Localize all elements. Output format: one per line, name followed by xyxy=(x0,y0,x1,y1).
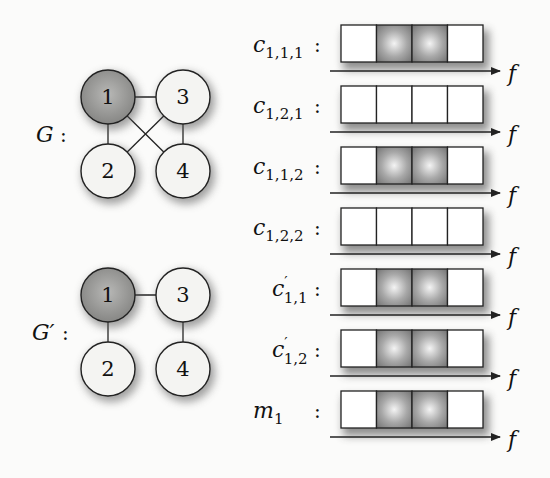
cell-empty xyxy=(448,86,484,123)
cell-empty xyxy=(412,86,448,123)
cell-empty xyxy=(341,391,377,428)
row-label: c′1,2 xyxy=(272,334,308,368)
graph-label-colon: : xyxy=(62,321,69,345)
row-label-colon: : xyxy=(314,277,321,301)
cell-empty xyxy=(448,208,484,245)
diagram-canvas: G:1234 G′:1234 c1,1,1:fc1,2,1:fc1,1,2:fc… xyxy=(0,0,550,478)
graph-g: G:1234 xyxy=(36,70,215,204)
row-label-colon: : xyxy=(314,33,321,57)
cell-active xyxy=(412,147,448,184)
row-label: c′1,1 xyxy=(272,273,308,307)
frequency-axis-label: f xyxy=(506,305,520,330)
frequency-axis-label: f xyxy=(506,61,520,86)
cell-empty xyxy=(448,25,484,62)
signal-rows: c1,1,1:fc1,2,1:fc1,1,2:fc1,2,2:fc′1,1:fc… xyxy=(253,25,520,452)
row-label: c1,1,2 xyxy=(253,154,304,184)
cell-active xyxy=(377,391,413,428)
signal-row: m1:f xyxy=(253,391,520,452)
row-label-colon: : xyxy=(314,155,321,179)
node-label: 3 xyxy=(176,283,189,307)
row-label: c1,2,2 xyxy=(253,215,304,245)
graph-g-prime: G′:1234 xyxy=(32,268,215,402)
row-label: m1 xyxy=(253,398,283,428)
signal-row: c1,2,1:f xyxy=(253,86,520,147)
cell-empty xyxy=(341,330,377,367)
node-label: 3 xyxy=(176,85,189,109)
cell-empty xyxy=(341,25,377,62)
cell-empty xyxy=(448,147,484,184)
node-label: 2 xyxy=(101,159,114,183)
cell-active xyxy=(377,147,413,184)
row-label-colon: : xyxy=(314,338,321,362)
node-label: 1 xyxy=(101,85,114,109)
signal-row: c1,2,2:f xyxy=(253,208,520,269)
cell-empty xyxy=(377,86,413,123)
graph-label: G′ xyxy=(32,320,55,345)
cell-empty xyxy=(448,269,484,306)
signal-row: c′1,2:f xyxy=(272,330,520,391)
cell-empty xyxy=(412,208,448,245)
cell-empty xyxy=(448,391,484,428)
cell-active xyxy=(377,25,413,62)
frequency-axis-label: f xyxy=(506,366,520,391)
row-label: c1,1,1 xyxy=(253,32,304,62)
frequency-axis-label: f xyxy=(506,122,520,147)
graph-label: G xyxy=(36,122,54,147)
signal-row: c′1,1:f xyxy=(272,269,520,330)
cell-active xyxy=(412,269,448,306)
frequency-axis-label: f xyxy=(506,244,520,269)
graph-label-colon: : xyxy=(60,123,67,147)
cell-empty xyxy=(341,269,377,306)
cell-active xyxy=(412,330,448,367)
cell-empty xyxy=(341,208,377,245)
node-label: 4 xyxy=(176,357,189,381)
row-label: c1,2,1 xyxy=(253,93,304,123)
node-label: 1 xyxy=(101,283,114,307)
node-label: 2 xyxy=(101,357,114,381)
row-label-colon: : xyxy=(314,94,321,118)
signal-row: c1,1,1:f xyxy=(253,25,520,86)
row-label-colon: : xyxy=(314,399,321,423)
cell-active xyxy=(412,25,448,62)
node-label: 4 xyxy=(176,159,189,183)
cell-empty xyxy=(341,86,377,123)
cell-empty xyxy=(377,208,413,245)
signal-row: c1,1,2:f xyxy=(253,147,520,208)
cell-empty xyxy=(341,147,377,184)
frequency-axis-label: f xyxy=(506,183,520,208)
cell-empty xyxy=(448,330,484,367)
row-label-colon: : xyxy=(314,216,321,240)
cell-active xyxy=(377,269,413,306)
cell-active xyxy=(412,391,448,428)
cell-active xyxy=(377,330,413,367)
frequency-axis-label: f xyxy=(506,427,520,452)
